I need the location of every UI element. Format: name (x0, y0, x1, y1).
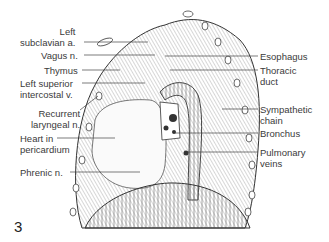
label-line: Pulmonary (260, 147, 305, 158)
label-esophagus: Esophagus (260, 51, 308, 62)
label-left-subclavian-artery: Left subclavian a. (20, 26, 75, 48)
label-line: Left (20, 26, 75, 37)
label-left-superior-intercostal-vein: Left superior intercostal v. (20, 78, 73, 100)
label-bronchus: Bronchus (260, 128, 300, 139)
label-line: chain (260, 115, 312, 126)
label-recurrent-laryngeal-nerve: Recurrent laryngeal n. (31, 108, 80, 130)
label-line: intercostal v. (20, 89, 73, 100)
label-line: pericardium (20, 144, 70, 155)
label-line: Recurrent (31, 108, 80, 119)
label-line: Heart in (20, 133, 70, 144)
label-line: laryngeal n. (31, 119, 80, 130)
label-pulmonary-veins: Pulmonary veins (260, 147, 305, 169)
label-line: Sympathetic (260, 104, 312, 115)
label-sympathetic-chain: Sympathetic chain (260, 104, 312, 126)
label-phrenic-nerve: Phrenic n. (20, 167, 63, 178)
figure-number: 3 (14, 218, 22, 235)
label-line: Left superior (20, 78, 73, 89)
heart-pericardium (92, 100, 166, 189)
label-line: duct (260, 76, 296, 87)
label-heart-in-pericardium: Heart in pericardium (20, 133, 70, 155)
label-vagus-nerve: Vagus n. (41, 50, 78, 61)
label-line: subclavian a. (20, 37, 75, 48)
label-line: veins (260, 158, 305, 169)
label-thoracic-duct: Thoracic duct (260, 65, 296, 87)
label-thymus: Thymus (44, 65, 78, 76)
label-line: Thoracic (260, 65, 296, 76)
